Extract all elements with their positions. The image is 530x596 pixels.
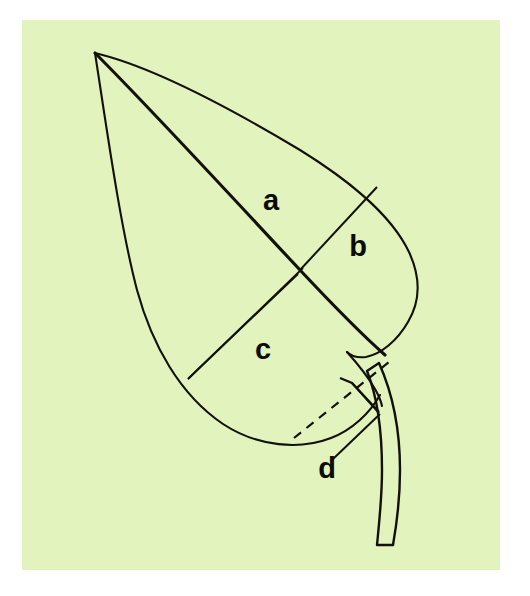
label-c: c — [255, 333, 271, 365]
leader-line-d — [333, 414, 380, 459]
leaf-diagram-svg: a b c d — [0, 0, 530, 596]
leaf-midrib-vein — [95, 53, 385, 355]
label-d: d — [318, 452, 336, 484]
measurement-line-c-endcap — [188, 374, 193, 379]
label-a: a — [263, 184, 280, 216]
figure-root: a b c d — [0, 0, 530, 596]
measurement-line-c-inner — [188, 274, 298, 379]
label-b: b — [349, 230, 367, 262]
petiole-outline — [367, 363, 400, 545]
leaf-left-margin — [95, 53, 380, 445]
